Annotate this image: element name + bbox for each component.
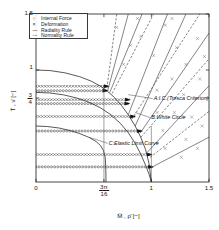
- annotation-b-white-circle: B:White Circle: [151, 114, 185, 120]
- x-tick-label-0: 0: [34, 185, 37, 191]
- x-tick-label-1: 1: [150, 185, 153, 191]
- x-tick-label-1-5: 1.5: [205, 185, 214, 191]
- x-axis-title: M̄ , ρ̄ [−]: [117, 213, 140, 219]
- annotation-a-tresca: A:I.C.(Tresca Criterion): [154, 95, 209, 101]
- y-axis-title: T̄ , ν̄ [−]: [9, 91, 16, 112]
- y-tick-label-three-quarters: 3 4: [28, 92, 33, 106]
- legend-label-normality-rule: Normality Rule: [41, 32, 74, 38]
- chart-figure: ○ Internal Force × Deformation — Radiali…: [0, 0, 219, 230]
- annotation-c-elastic-limit: C:Elastic Limit Curve: [109, 140, 159, 146]
- chart-legend: ○ Internal Force × Deformation — Radiali…: [29, 13, 88, 39]
- y-tick-label-1-5: 1.5: [24, 10, 33, 16]
- x-tick-label-3pi-16: 3π 16: [99, 184, 109, 198]
- y-tick-denominator: 4: [28, 98, 33, 105]
- x-tick-denominator: 16: [99, 190, 109, 197]
- y-tick-label-1: 1: [30, 64, 33, 70]
